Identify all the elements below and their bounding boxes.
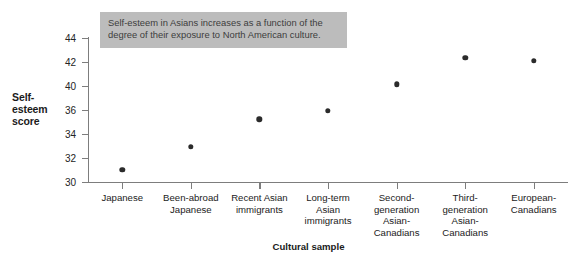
x-axis-category-label: European-Canadians	[497, 192, 571, 215]
y-axis-tick	[82, 134, 88, 135]
x-axis-title: Cultural sample	[0, 241, 575, 252]
y-axis-tick-label: 44	[0, 33, 79, 44]
x-axis-tick	[328, 183, 329, 189]
category-label-line: immigrants	[222, 204, 296, 216]
annotation-callout: Self-esteem in Asians increases as a fun…	[100, 12, 347, 48]
category-label-line: European-	[497, 192, 571, 204]
y-axis-tick-label: 34	[0, 129, 79, 140]
category-label-line: Canadians	[428, 227, 502, 239]
x-axis-category-label: Second-generationAsian-Canadians	[360, 192, 434, 238]
category-label-line: Third-	[428, 192, 502, 204]
y-axis-tick	[82, 158, 88, 159]
x-axis-category-label: Been-abroadJapanese	[154, 192, 228, 215]
y-axis-tick	[82, 62, 88, 63]
category-label-line: Second-	[360, 192, 434, 204]
scatter-chart: Self- esteem score 44424036343230 Japane…	[0, 0, 575, 258]
category-label-line: Been-abroad	[154, 192, 228, 204]
y-axis-tick-label: 30	[0, 177, 79, 188]
data-point	[120, 167, 125, 172]
category-label-line: Asian-	[360, 215, 434, 227]
data-point	[462, 55, 467, 60]
x-axis-tick	[191, 183, 192, 189]
y-axis-tick	[82, 182, 88, 183]
y-axis-tick-label: 36	[0, 105, 79, 116]
y-axis-tick	[82, 86, 88, 87]
category-label-line: Canadians	[497, 204, 571, 216]
x-axis-category-label: Japanese	[85, 192, 159, 204]
data-point	[257, 117, 262, 122]
category-label-line: generation	[360, 204, 434, 216]
category-label-line: immigrants	[291, 215, 365, 227]
data-point	[394, 82, 399, 87]
x-axis-category-label: Long-termAsianimmigrants	[291, 192, 365, 227]
x-axis-tick	[259, 183, 260, 189]
y-axis-tick	[82, 38, 88, 39]
category-label-line: Asian	[291, 204, 365, 216]
y-axis-tick-label: 32	[0, 153, 79, 164]
annotation-line-1: Self-esteem in Asians increases as a fun…	[108, 17, 339, 29]
data-point	[325, 108, 330, 113]
y-axis-line	[88, 37, 89, 183]
data-point	[531, 58, 536, 63]
data-point	[188, 144, 193, 149]
y-axis-title-line-1: Self-	[12, 91, 64, 103]
y-axis-title-line-3: score	[12, 115, 64, 127]
category-label-line: Asian-	[428, 215, 502, 227]
category-label-line: Japanese	[154, 204, 228, 216]
x-axis-category-label: Third-generationAsian-Canadians	[428, 192, 502, 238]
x-axis-category-label: Recent Asianimmigrants	[222, 192, 296, 215]
category-label-line: Canadians	[360, 227, 434, 239]
y-axis-tick	[82, 110, 88, 111]
x-axis-tick	[397, 183, 398, 189]
category-label-line: Recent Asian	[222, 192, 296, 204]
category-label-line: Japanese	[85, 192, 159, 204]
category-label-line: generation	[428, 204, 502, 216]
x-axis-tick	[122, 183, 123, 189]
x-axis-tick	[465, 183, 466, 189]
annotation-line-2: degree of their exposure to North Americ…	[108, 29, 339, 41]
y-axis-tick-label: 40	[0, 81, 79, 92]
x-axis-tick	[534, 183, 535, 189]
category-label-line: Long-term	[291, 192, 365, 204]
y-axis-tick-label: 42	[0, 57, 79, 68]
